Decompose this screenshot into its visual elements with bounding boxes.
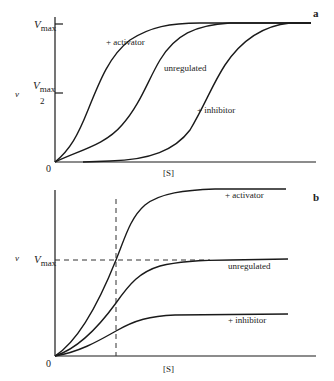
panel-b-unregulated-curve: [55, 259, 288, 356]
panel-a-zero-label: 0: [46, 163, 51, 174]
panel-a-x-label: [S]: [163, 168, 174, 178]
panel-a-unregulated-label: unregulated: [164, 63, 207, 73]
panel-a-vmax-label: Vmax: [34, 18, 57, 33]
panel-b-x-label: [S]: [163, 364, 174, 374]
panel-a-activator-label: + activator: [106, 37, 145, 47]
panel-b-activator-label: + activator: [225, 190, 264, 200]
panel-a-half-vmax-denominator: 2: [40, 96, 45, 106]
panel-a-inhibitor-label: + inhibitor: [197, 105, 235, 115]
panel-b-label: b: [313, 191, 319, 203]
panel-a-y-label: v: [15, 89, 19, 99]
panel-b-y-label: v: [15, 253, 19, 263]
panel-a-unregulated-curve: [55, 23, 311, 162]
panel-b-vmax-label: Vmax: [34, 253, 57, 268]
panel-b: b Vmax v 0 [S] + activator unregulated +…: [15, 189, 319, 374]
allosteric-kinetics-figure: a Vmax Vmax 2 v 0 [S] + activator unregu…: [0, 0, 334, 381]
panel-b-activator-curve: [55, 189, 286, 356]
panel-a-half-vmax-numerator: Vmax: [33, 79, 56, 94]
panel-a-label: a: [313, 7, 319, 19]
panel-b-zero-label: 0: [46, 358, 51, 369]
panel-a: a Vmax Vmax 2 v 0 [S] + activator unregu…: [15, 7, 319, 178]
panel-b-inhibitor-label: + inhibitor: [228, 315, 266, 325]
panel-a-activator-curve: [55, 23, 311, 162]
panel-b-unregulated-label: unregulated: [228, 261, 271, 271]
